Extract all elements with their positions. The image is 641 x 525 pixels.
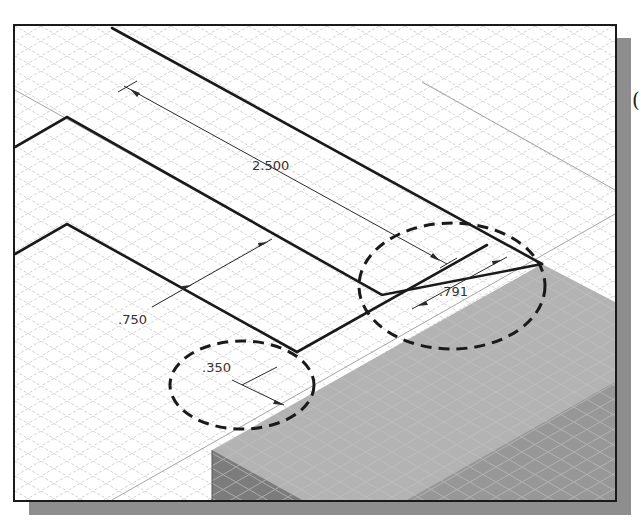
sketch-canvas[interactable]: 2.500 .750 .350 .791	[15, 26, 615, 500]
dimension-791-label[interactable]: .791	[439, 284, 468, 299]
cad-graphics-window[interactable]: 2.500 .750 .350 .791	[13, 24, 617, 502]
dimension-2500-label[interactable]: 2.500	[252, 158, 289, 173]
cropped-margin-text: (	[632, 88, 640, 112]
dimension-350-label[interactable]: .350	[202, 360, 231, 375]
dimension-750-label[interactable]: .750	[118, 312, 147, 327]
